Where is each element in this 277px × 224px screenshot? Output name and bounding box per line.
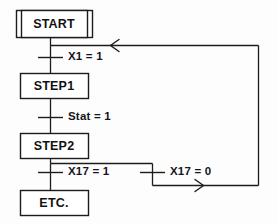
sfc-diagram-canvas: START STEP1 STEP2 ETC. X1 = 1 Stat = 1 X… — [0, 0, 277, 224]
transition-label-x17-eq-0: X17 = 0 — [170, 165, 211, 177]
transition-label-x1-eq-1: X1 = 1 — [68, 50, 103, 62]
transition-label-x17-eq-1: X17 = 1 — [68, 165, 109, 177]
diagram-vector-layer — [0, 0, 277, 224]
step-label-start: START — [28, 17, 80, 31]
transition-label-stat-eq-1: Stat = 1 — [68, 110, 111, 122]
step-label-etc: ETC. — [22, 196, 86, 210]
step-label-step1: STEP1 — [22, 79, 86, 93]
step-label-step2: STEP2 — [22, 139, 86, 153]
